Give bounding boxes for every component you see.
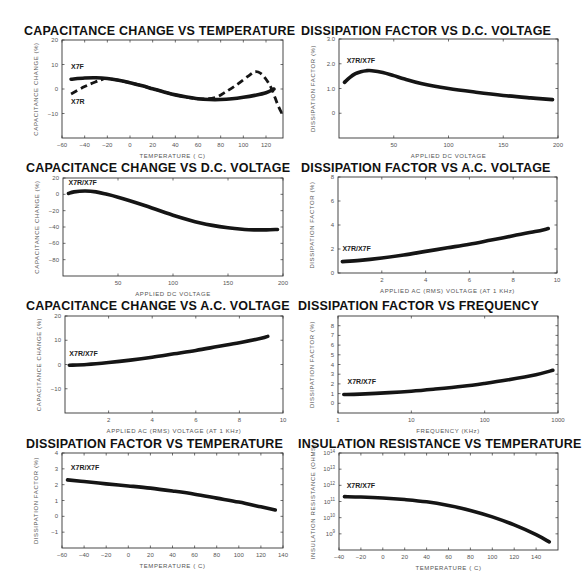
- cap-vs-dc-ytick-label: 0: [56, 191, 60, 197]
- cap-vs-ac-xtick-label: 2: [107, 417, 111, 423]
- cap-vs-dc-ytick-label: −60: [49, 240, 60, 246]
- ir-vs-temp-ytick-label: 1010: [323, 513, 335, 521]
- cap-vs-ac-xtick-label: 8: [238, 417, 242, 423]
- cap-vs-dc-xtick-label: 200: [278, 280, 289, 286]
- df-vs-ac-series-label: X7R/X7F: [342, 245, 371, 252]
- ir-vs-temp-ytick-label: 109: [326, 529, 336, 537]
- df-vs-dc-x-axis-label: APPLIED DC VOLTAGE: [411, 153, 487, 159]
- df-vs-dc-ytick-label: 2.0: [327, 61, 336, 67]
- df-vs-temp-ytick-label: 3: [55, 466, 59, 472]
- cap-vs-ac-ytick-label: 0: [58, 362, 62, 368]
- cap-vs-ac-title: CAPACITANCE CHANGE VS A.C. VOLTAGE: [26, 299, 290, 313]
- df-vs-ac-xtick-label: 10: [554, 277, 561, 283]
- charts-canvas: −60−40−2002040608010012020100−10TEMPERAT…: [0, 0, 584, 585]
- df-vs-ac-series-x7r-x7f-line: [342, 229, 548, 262]
- df-vs-temp-series-label: X7R/X7F: [71, 464, 100, 471]
- ir-vs-temp-xtick-label: −20: [356, 554, 367, 560]
- cap-vs-temp-xtick-label: −40: [80, 142, 91, 148]
- df-vs-ac-y-axis-label: DISSIPATION FACTOR (%): [309, 181, 315, 268]
- ir-vs-temp-xtick-label: 80: [467, 554, 474, 560]
- df-vs-temp-title: DISSIPATION FACTOR VS TEMPERATURE: [26, 437, 283, 451]
- df-vs-temp-xtick-label: −20: [101, 552, 112, 558]
- df-vs-freq-ytick-label: 2: [331, 381, 335, 387]
- cap-vs-dc-y-axis-label: CAPACITANCE CHANGE (%): [34, 180, 40, 273]
- df-vs-temp-xtick-label: 120: [256, 552, 267, 558]
- df-vs-ac-xtick-label: 8: [512, 277, 516, 283]
- cap-vs-temp-chart: −60−40−2002040608010012020100−10TEMPERAT…: [33, 37, 283, 159]
- df-vs-freq-ytick-label: 8: [331, 323, 335, 329]
- cap-vs-ac-xtick-label: 6: [194, 417, 198, 423]
- cap-vs-temp-xtick-label: 60: [195, 142, 202, 148]
- cap-vs-temp-xtick-label: 0: [128, 142, 132, 148]
- cap-vs-temp-xtick-label: 40: [172, 142, 179, 148]
- cap-vs-temp-xtick-label: 120: [261, 142, 272, 148]
- df-vs-freq-x-axis-label: FREQUENCY (KHz): [416, 428, 480, 434]
- df-vs-dc-xtick-label: 100: [443, 142, 454, 148]
- df-vs-freq-title: DISSIPATION FACTOR VS FREQUENCY: [298, 299, 539, 313]
- df-vs-freq-plot-frame: [338, 316, 558, 413]
- ir-vs-temp-series-x7r-x7f-line: [344, 497, 549, 542]
- df-vs-ac-xtick-label: 4: [424, 277, 428, 283]
- ir-vs-temp-ytick-label: 1012: [323, 481, 335, 489]
- cap-vs-temp-ytick-label: −10: [48, 111, 59, 117]
- cap-vs-temp-ytick-label: 10: [51, 62, 58, 68]
- df-vs-ac-x-axis-label: APPLIED AC (RMS) VOLTAGE (AT 1 KHz): [380, 288, 515, 294]
- ir-vs-temp-plot-frame: [339, 453, 558, 550]
- ir-vs-temp-chart: −40−200204060801001201401014101310121011…: [310, 444, 558, 571]
- cap-vs-temp-xtick-label: −60: [57, 142, 68, 148]
- df-vs-freq-ytick-label: 6: [331, 342, 335, 348]
- df-vs-temp-ytick-label: 2: [55, 482, 59, 488]
- cap-vs-ac-xtick-label: 4: [151, 417, 155, 423]
- cap-vs-temp-xtick-label: 100: [238, 142, 249, 148]
- cap-vs-ac-series-x7r-x7f-line: [69, 336, 267, 365]
- cap-vs-temp-ytick-label: 0: [55, 86, 59, 92]
- df-vs-temp-series-x7r-x7f-line: [68, 480, 276, 510]
- cap-vs-dc-chart: 50100150200200−20−40−60−80APPLIED DC VOL…: [34, 175, 289, 297]
- ir-vs-temp-xtick-label: 60: [445, 554, 452, 560]
- df-vs-temp-ytick-label: −1: [51, 529, 59, 535]
- ir-vs-temp-y-axis-label: INSULATION RESISTANCE (OHMS): [310, 444, 316, 560]
- df-vs-temp-chart: −60−40−2002040608010012014043210−1TEMPER…: [33, 450, 289, 569]
- df-vs-freq-xtick-label: 1000: [551, 417, 565, 423]
- ir-vs-temp-series-label: X7R/X7F: [347, 482, 376, 489]
- df-vs-freq-ytick-label: 1: [331, 391, 335, 397]
- ir-vs-temp-xtick-label: 40: [423, 554, 430, 560]
- cap-vs-temp-x-axis-label: TEMPERATURE ( C): [139, 153, 205, 159]
- df-vs-temp-xtick-label: −60: [57, 552, 68, 558]
- df-vs-freq-ytick-label: 7: [331, 332, 335, 338]
- cap-vs-dc-ytick-label: −20: [49, 208, 60, 214]
- ir-vs-temp-xtick-label: 100: [487, 554, 498, 560]
- df-vs-freq-series-label: X7R/X7F: [348, 378, 377, 385]
- ir-vs-temp-title: INSULATION RESISTANCE VS TEMPERATURE: [298, 437, 582, 451]
- cap-vs-temp-xtick-label: 80: [217, 142, 224, 148]
- df-vs-temp-xtick-label: −40: [79, 552, 90, 558]
- df-vs-ac-xtick-label: 2: [380, 277, 384, 283]
- cap-vs-temp-y-axis-label: CAPACITANCE CHANGE (%): [33, 42, 39, 135]
- cap-vs-temp-xtick-label: 20: [149, 142, 156, 148]
- df-vs-temp-xtick-label: 40: [169, 552, 176, 558]
- ir-vs-temp-x-axis-label: TEMPERATURE ( C): [415, 565, 481, 571]
- df-vs-freq-xtick-label: 10: [408, 417, 415, 423]
- ir-vs-temp-xtick-label: 140: [531, 554, 542, 560]
- df-vs-freq-xtick-label: 100: [480, 417, 491, 423]
- df-vs-dc-series-x7r-x7f-line: [344, 71, 552, 100]
- ir-vs-temp-xtick-label: 120: [509, 554, 520, 560]
- ir-vs-temp-ytick-label: 1013: [323, 465, 335, 473]
- df-vs-freq-xtick-label: 1: [336, 417, 340, 423]
- cap-vs-ac-ytick-label: −10: [51, 386, 62, 392]
- df-vs-temp-xtick-label: 100: [234, 552, 245, 558]
- df-vs-ac-title: DISSIPATION FACTOR VS A.C. VOLTAGE: [301, 161, 551, 175]
- df-vs-freq-ytick-label: 3: [331, 371, 335, 377]
- cap-vs-dc-series-x7r-x7f-line: [69, 191, 278, 230]
- cap-vs-temp-title: CAPACITANCE CHANGE VS TEMPERATURE: [24, 24, 295, 38]
- ir-vs-temp-xtick-label: 0: [381, 554, 385, 560]
- df-vs-temp-y-axis-label: DISSIPATION FACTOR (%): [33, 457, 39, 544]
- ir-vs-temp-xtick-label: −40: [334, 554, 345, 560]
- cap-vs-temp-series-label: X7F: [71, 63, 85, 70]
- cap-vs-dc-title: CAPACITANCE CHANGE VS D.C. VOLTAGE: [26, 161, 290, 175]
- df-vs-temp-xtick-label: 60: [191, 552, 198, 558]
- df-vs-dc-xtick-label: 150: [498, 142, 509, 148]
- df-vs-ac-chart: 24681086420APPLIED AC (RMS) VOLTAGE (AT …: [309, 174, 561, 294]
- cap-vs-ac-ytick-label: 20: [54, 313, 61, 319]
- df-vs-ac-ytick-label: 6: [331, 198, 335, 204]
